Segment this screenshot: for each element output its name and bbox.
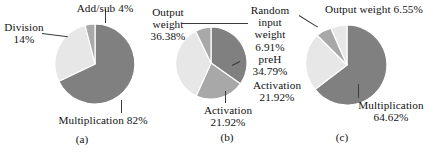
pie-chart-a: Division 14% Add/sub 4% Multiplication 8… (0, 0, 150, 154)
caption-c: (c) (322, 131, 362, 143)
pie-c-svg (306, 24, 388, 106)
caption-a: (a) (62, 133, 102, 145)
pie-chart-c: Output weight 6.55% Multiplication 64.62… (300, 0, 435, 154)
label-output-weight-b: Output weight 36.38% (140, 6, 196, 43)
figure-panel: Division 14% Add/sub 4% Multiplication 8… (0, 0, 435, 154)
label-multiplication-a: Multiplication 82% (48, 114, 158, 126)
leader-line-multiplication-c (358, 84, 359, 98)
leader-line-multiplication (121, 100, 122, 113)
label-output-weight-c: Output weight 6.55% (314, 3, 434, 15)
label-multiplication-c: Multiplication 64.62% (348, 99, 434, 123)
label-addsub: Add/sub 4% (63, 2, 147, 14)
leader-line-activation-b (225, 91, 226, 103)
shared-label-block: Random input weight 6.91% preH 34.79% Ac… (240, 0, 305, 154)
pie-a-svg (55, 22, 137, 106)
label-random-input-weight: Random input weight 6.91% (239, 4, 301, 53)
label-preh: preH 34.79% (239, 53, 301, 77)
label-division: Division 14% (0, 21, 48, 45)
